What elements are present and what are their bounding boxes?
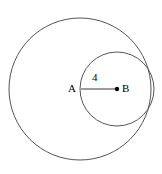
label-segment-length: 4 xyxy=(92,72,98,83)
point-b-dot xyxy=(115,87,119,91)
figure-canvas xyxy=(0,0,162,174)
geometry-figure: A 4 B xyxy=(0,0,162,174)
label-point-b: B xyxy=(122,83,129,94)
label-point-a: A xyxy=(68,83,76,94)
